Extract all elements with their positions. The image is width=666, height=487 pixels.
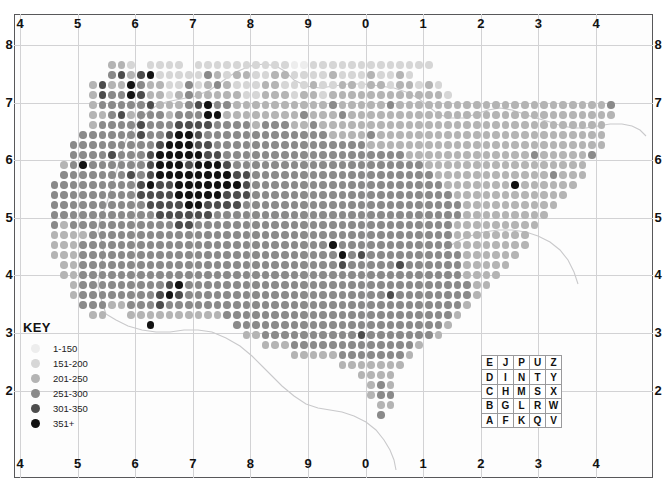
map-dot [233, 261, 241, 269]
map-dot [396, 131, 404, 139]
map-dot [540, 111, 548, 119]
axis-tick-label-bottom: 2 [472, 457, 490, 471]
map-dot [233, 131, 241, 139]
map-dot [166, 161, 174, 169]
map-dot [185, 101, 193, 109]
map-dot [444, 281, 452, 289]
map-dot [271, 121, 279, 129]
map-dot [367, 221, 375, 229]
map-dot [367, 291, 375, 299]
letter-grid-cell: Y [546, 370, 562, 384]
map-dot [473, 181, 481, 189]
map-dot [406, 141, 414, 149]
map-dot [502, 151, 510, 159]
map-dot [454, 251, 462, 259]
map-dot [435, 101, 443, 109]
map-dot [396, 71, 404, 79]
map-dot [588, 101, 596, 109]
map-dot [339, 241, 347, 249]
map-dot [310, 211, 318, 219]
letter-grid-cell: S [530, 384, 546, 398]
map-dot [252, 221, 260, 229]
map-dot [89, 181, 97, 189]
map-dot [531, 191, 539, 199]
map-dot [137, 171, 145, 179]
map-dot [377, 181, 385, 189]
map-dot [243, 271, 251, 279]
map-dot [262, 61, 270, 69]
map-dot [339, 201, 347, 209]
map-dot [396, 211, 404, 219]
map-dot [319, 121, 327, 129]
map-dot [435, 171, 443, 179]
map-dot [329, 321, 337, 329]
map-dot [51, 231, 59, 239]
map-dot [60, 181, 68, 189]
map-dot [79, 201, 87, 209]
map-dot [79, 151, 87, 159]
map-dot [348, 211, 356, 219]
map-dot [367, 81, 375, 89]
map-dot [531, 161, 539, 169]
map-dot [252, 301, 260, 309]
map-dot [89, 121, 97, 129]
map-dot [60, 261, 68, 269]
map-dot [387, 321, 395, 329]
map-dot [233, 221, 241, 229]
map-dot [195, 131, 203, 139]
map-dot [300, 351, 308, 359]
map-dot [175, 121, 183, 129]
map-dot [108, 131, 116, 139]
map-dot [463, 231, 471, 239]
map-dot [223, 281, 231, 289]
map-dot [521, 171, 529, 179]
map-dot [60, 161, 68, 169]
map-dot [367, 361, 375, 369]
map-dot [348, 291, 356, 299]
key-class-label: 1-150 [53, 343, 77, 354]
map-dot [300, 241, 308, 249]
map-dot [339, 101, 347, 109]
map-dot [300, 261, 308, 269]
map-dot [425, 81, 433, 89]
map-dot [137, 101, 145, 109]
axis-tick-label-left: 6 [2, 153, 16, 167]
map-dot [166, 241, 174, 249]
map-dot [252, 151, 260, 159]
axis-tick-label-top: 8 [241, 17, 259, 31]
map-dot [127, 161, 135, 169]
map-dot [271, 71, 279, 79]
map-dot [319, 311, 327, 319]
map-dot [559, 181, 567, 189]
map-dot [502, 251, 510, 259]
map-dot [156, 281, 164, 289]
map-dot [137, 291, 145, 299]
map-dot [300, 331, 308, 339]
map-dot [89, 301, 97, 309]
map-dot [175, 251, 183, 259]
map-dot [473, 211, 481, 219]
map-dot [425, 101, 433, 109]
map-dot [243, 91, 251, 99]
map-dot [531, 151, 539, 159]
map-dot [387, 161, 395, 169]
map-dot [223, 91, 231, 99]
map-dot [435, 261, 443, 269]
map-dot [473, 101, 481, 109]
map-dot [444, 131, 452, 139]
map-dot [310, 91, 318, 99]
map-dot [415, 101, 423, 109]
map-dot [319, 191, 327, 199]
map-dot [473, 161, 481, 169]
map-dot [166, 271, 174, 279]
axis-tick-label-bottom: 4 [587, 457, 605, 471]
map-dot [156, 221, 164, 229]
map-dot [569, 141, 577, 149]
map-dot [329, 181, 337, 189]
map-dot [175, 181, 183, 189]
map-dot [223, 191, 231, 199]
map-dot [89, 291, 97, 299]
map-dot [329, 201, 337, 209]
map-dot [89, 241, 97, 249]
map-dot [99, 201, 107, 209]
